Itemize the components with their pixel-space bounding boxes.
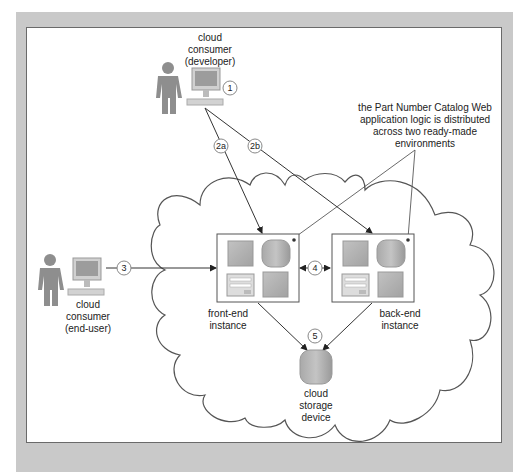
developer-computer-icon: [187, 68, 223, 105]
arrow-2a: [205, 108, 262, 233]
server-cube-icon: [343, 241, 368, 266]
front-end-instance-label: front-end instance: [198, 308, 258, 332]
back-end-instance[interactable]: [332, 234, 414, 302]
arrow-2b: [205, 108, 372, 233]
step-2b-label: 2b: [247, 140, 263, 152]
annotation-note: the Part Number Catalog Web application …: [350, 102, 500, 150]
database-icon: [377, 240, 405, 267]
storage-cube-icon: [263, 272, 288, 297]
callout-line-front: [294, 150, 415, 238]
step-3-label: 3: [118, 262, 130, 274]
end-user-label: cloud consumer (end-user): [48, 299, 128, 335]
front-end-instance[interactable]: [217, 234, 299, 302]
callout-line-back: [408, 150, 415, 238]
cloud-storage-device-label: cloud storage device: [286, 388, 346, 424]
arrow-5b: [323, 303, 372, 350]
developer-label: cloud consumer (developer): [170, 32, 250, 68]
form-window-icon: [227, 274, 254, 296]
end-user-computer-icon: [68, 258, 104, 295]
database-icon: [262, 240, 290, 267]
form-window-icon: [342, 274, 369, 296]
step-1-label: 1: [224, 82, 236, 94]
server-cube-icon: [228, 241, 253, 266]
arrow-5a: [258, 303, 307, 350]
step-4-label: 4: [309, 262, 321, 274]
step-5-label: 5: [309, 330, 321, 342]
step-2a-label: 2a: [213, 140, 229, 152]
storage-cube-icon: [378, 272, 403, 297]
back-end-instance-label: back-end instance: [370, 308, 430, 332]
developer-person-icon: [156, 62, 182, 114]
cloud-storage-device-icon[interactable]: [300, 350, 332, 384]
